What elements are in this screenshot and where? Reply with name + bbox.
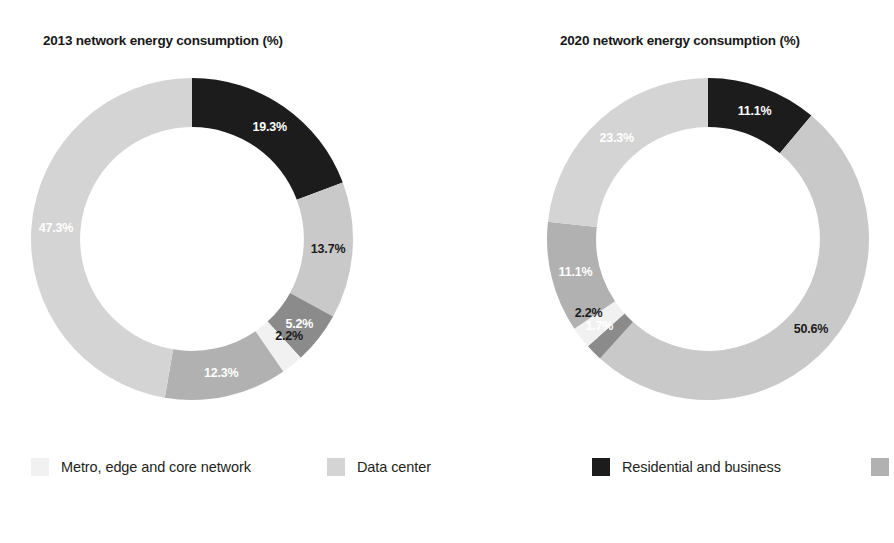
slice-value-label: 12.3% — [204, 366, 239, 380]
slice-value-label: 2.2% — [275, 329, 303, 343]
donut-chart-2013: 19.3%13.7%5.2%2.2%12.3%47.3% — [31, 78, 353, 400]
donut-svg-2013: 19.3%13.7%5.2%2.2%12.3%47.3% — [31, 78, 353, 400]
legend-item-residential-and-business: Residential and business — [592, 458, 871, 476]
slice-value-label: 50.6% — [794, 322, 829, 336]
pie-slice-data-center — [548, 78, 708, 227]
slice-value-label: 23.3% — [600, 131, 635, 145]
legend-swatch-icon — [871, 458, 889, 476]
legend-item-metro-edge-and-core-network: Metro, edge and core network — [31, 458, 327, 476]
slice-value-label: 13.7% — [311, 242, 346, 256]
pie-slice-residential-and-business — [192, 78, 343, 200]
slice-group — [547, 78, 869, 400]
legend-item-label: Data center — [357, 459, 431, 475]
slice-value-label: 47.3% — [39, 221, 74, 235]
slice-value-label: 2.2% — [575, 306, 603, 320]
chart-title-2020: 2020 network energy consumption (%) — [560, 33, 800, 48]
chart-legend: Metro, edge and core networkData centerR… — [31, 451, 871, 482]
pie-slice-radio-access-network — [600, 116, 869, 400]
legend-swatch-icon — [31, 458, 49, 476]
donut-svg-2020: 11.1%50.6%1.7%2.2%11.1%23.3% — [547, 78, 869, 400]
legend-item-data-center: Data center — [327, 458, 592, 476]
pie-slice-data-center — [31, 78, 192, 398]
donut-chart-2020: 11.1%50.6%1.7%2.2%11.1%23.3% — [547, 78, 869, 400]
slice-value-label: 19.3% — [253, 120, 288, 134]
legend-item-service-core: Service core — [871, 458, 894, 476]
slice-group — [31, 78, 353, 400]
figure-root: 2013 network energy consumption (%) 19.3… — [0, 0, 894, 543]
legend-swatch-icon — [327, 458, 345, 476]
legend-item-label: Residential and business — [622, 459, 781, 475]
chart-title-2013: 2013 network energy consumption (%) — [43, 33, 283, 48]
slice-value-label: 11.1% — [559, 265, 593, 279]
legend-swatch-icon — [592, 458, 610, 476]
slice-value-label: 1.7% — [585, 319, 613, 333]
legend-item-label: Metro, edge and core network — [61, 459, 251, 475]
slice-value-label: 11.1% — [738, 104, 772, 118]
